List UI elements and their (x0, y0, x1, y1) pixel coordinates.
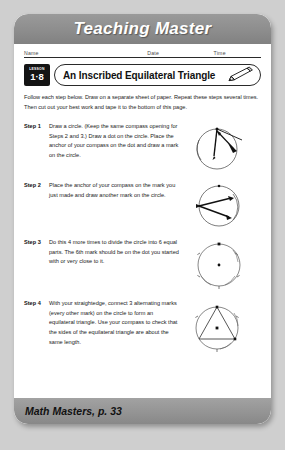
step-label: Step 1 (24, 122, 49, 162)
step-figure (183, 299, 261, 357)
name-field-label[interactable]: Name (24, 50, 147, 56)
step-label: Step 2 (24, 181, 49, 201)
worksheet-body: Name Date Time LESSON 1·8 An Inscribed E… (14, 44, 271, 398)
step-text-column: Step 4 With your straightedge, connect 3… (24, 299, 183, 349)
circle-divided-into-six-parts-icon (187, 238, 257, 292)
lesson-badge-number: 1·8 (30, 72, 44, 82)
step-text: Place the anchor of your compass on the … (49, 181, 179, 201)
intro-paragraph: Follow each step below. Draw on a separa… (24, 93, 261, 113)
name-date-time-row: Name Date Time (24, 50, 261, 58)
worksheet-title: An Inscribed Equilateral Triangle (63, 70, 215, 81)
footer-band: Math Masters, p. 33 (14, 398, 271, 424)
step-text-column: Step 2 Place the anchor of your compass … (24, 181, 183, 201)
step-text-column: Step 3 Do this 4 more times to divide th… (24, 238, 183, 268)
page-title: Teaching Master (73, 19, 211, 39)
step-text: Do this 4 more times to divide the circl… (49, 238, 179, 268)
teaching-master-header-band: Teaching Master (14, 14, 271, 44)
worksheet-page: Teaching Master Name Date Time LESSON 1·… (14, 14, 271, 424)
step-figure (183, 181, 261, 231)
step-label: Step 3 (24, 238, 49, 268)
step-row: Step 2 Place the anchor of your compass … (24, 181, 261, 231)
step-figure (183, 238, 261, 292)
step-text: Draw a circle. (Keep the same compass op… (49, 122, 179, 162)
lesson-badge: LESSON 1·8 (24, 64, 50, 86)
lesson-title-row: LESSON 1·8 An Inscribed Equilateral Tria… (24, 64, 261, 86)
circle-with-compass-first-mark-icon (187, 122, 257, 174)
circle-with-compass-second-mark-icon (187, 181, 257, 231)
step-text-column: Step 1 Draw a circle. (Keep the same com… (24, 122, 183, 162)
title-plate: An Inscribed Equilateral Triangle (54, 64, 261, 86)
footer-source-label: Math Masters, p. 33 (25, 405, 122, 417)
step-row: Step 1 Draw a circle. (Keep the same com… (24, 122, 261, 174)
step-figure (183, 122, 261, 174)
step-row: Step 4 With your straightedge, connect 3… (24, 299, 261, 357)
step-label: Step 4 (24, 299, 49, 349)
step-row: Step 3 Do this 4 more times to divide th… (24, 238, 261, 292)
circle-with-inscribed-equilateral-triangle-icon (187, 299, 257, 357)
date-field-label[interactable]: Date (147, 50, 213, 56)
step-text: With your straightedge, connect 3 altern… (49, 299, 179, 349)
pencil-icon (226, 66, 256, 84)
time-field-label[interactable]: Time (214, 50, 261, 56)
